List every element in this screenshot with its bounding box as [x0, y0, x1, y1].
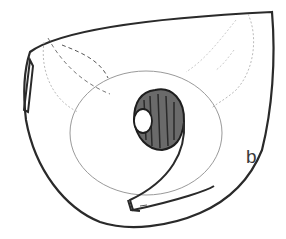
- tail-mark: [140, 205, 147, 206]
- dotted-line-right-2: [186, 20, 236, 72]
- dotted-line-right-3: [216, 50, 234, 70]
- dashed-line-left-2: [62, 45, 108, 78]
- dotted-line-right-1: [212, 14, 254, 108]
- specimen-drawing: [0, 0, 286, 239]
- core-opening: [134, 109, 152, 133]
- dotted-line-left: [43, 42, 78, 112]
- panel-label: b: [246, 146, 257, 168]
- dashed-line-left-1: [48, 38, 110, 94]
